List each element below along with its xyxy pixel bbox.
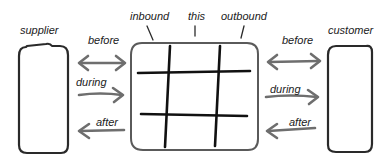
- this-label: this: [188, 11, 205, 22]
- grid-lines: [138, 46, 250, 147]
- right-before-label: before: [282, 35, 313, 46]
- inbound-label: inbound: [130, 11, 169, 22]
- center-box: [131, 43, 258, 150]
- left-before-label: before: [88, 35, 119, 46]
- label-pointers: [147, 26, 244, 40]
- diagram-canvas: supplier customer inbound this outbound …: [0, 0, 386, 166]
- supplier-label: supplier: [20, 25, 59, 36]
- left-during-label: during: [76, 77, 107, 88]
- right-after-label: after: [289, 117, 311, 128]
- right-during-label: during: [270, 84, 301, 95]
- customer-label: customer: [328, 25, 373, 36]
- supplier-box: [19, 44, 68, 153]
- customer-box: [328, 46, 372, 152]
- left-after-label: after: [96, 117, 118, 128]
- outbound-label: outbound: [221, 11, 267, 22]
